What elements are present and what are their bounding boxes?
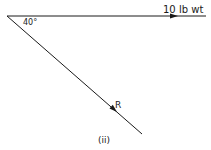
resultant-label: R <box>115 101 121 110</box>
angle-label: 40° <box>23 19 37 27</box>
figure-caption: (ii) <box>98 136 110 145</box>
resultant-force-line <box>7 16 142 134</box>
force-diagram: 10 lb wt 40° R (ii) <box>0 0 211 150</box>
horizontal-force-label: 10 lb wt <box>163 5 203 15</box>
